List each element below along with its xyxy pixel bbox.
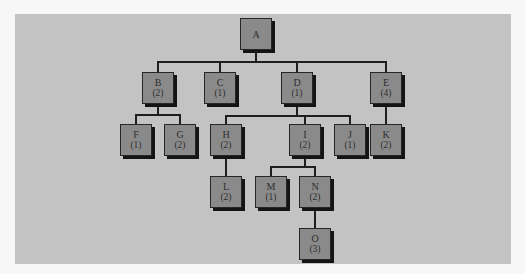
- edge-i-bus: [270, 166, 316, 168]
- edge-d-j: [349, 115, 351, 124]
- tree-node-i: I (2): [289, 124, 321, 156]
- tree-node-o: O (3): [299, 228, 331, 260]
- node-label: I: [303, 129, 306, 140]
- node-count: (4): [380, 88, 391, 99]
- node-label: C: [217, 77, 224, 88]
- node-label: O: [311, 233, 318, 244]
- tree-node-g: G (2): [164, 124, 196, 156]
- node-count: (1): [130, 140, 141, 151]
- edge-a-d: [296, 61, 298, 72]
- node-count: (2): [174, 140, 185, 151]
- tree-node-d: D (1): [281, 72, 313, 104]
- tree-node-m: M (1): [255, 176, 287, 208]
- node-count: (2): [152, 88, 163, 99]
- edge-i-m: [270, 166, 272, 176]
- edge-a-bus: [157, 61, 387, 63]
- tree-node-l: L (2): [210, 176, 242, 208]
- node-count: (1): [265, 192, 276, 203]
- edge-e-k: [385, 104, 387, 124]
- node-count: (2): [220, 140, 231, 151]
- node-count: (3): [309, 244, 320, 255]
- node-label: G: [176, 129, 183, 140]
- node-label: E: [383, 77, 389, 88]
- tree-node-b: B (2): [142, 72, 174, 104]
- edge-d-i: [304, 115, 306, 124]
- node-count: (2): [299, 140, 310, 151]
- edge-a-c: [219, 61, 221, 72]
- edge-b-f: [135, 114, 137, 124]
- tree-node-n: N (2): [299, 176, 331, 208]
- tree-node-h: H (2): [210, 124, 242, 156]
- edge-d-h: [225, 115, 227, 124]
- node-label: L: [223, 181, 229, 192]
- node-label: D: [293, 77, 300, 88]
- node-label: A: [252, 29, 259, 40]
- tree-node-f: F (1): [120, 124, 152, 156]
- node-count: (2): [220, 192, 231, 203]
- node-label: M: [267, 181, 276, 192]
- tree-node-e: E (4): [370, 72, 402, 104]
- node-label: B: [155, 77, 162, 88]
- node-count: (1): [291, 88, 302, 99]
- node-label: K: [382, 129, 389, 140]
- edge-b-bus: [135, 114, 181, 116]
- node-count: (2): [309, 192, 320, 203]
- tree-node-a: A: [240, 18, 272, 50]
- diagram-panel: [15, 14, 511, 264]
- edge-i-n: [314, 166, 316, 176]
- edge-n-o: [314, 208, 316, 228]
- tree-node-k: K (2): [370, 124, 402, 156]
- node-count: (2): [380, 140, 391, 151]
- edge-b-g: [179, 114, 181, 124]
- node-label: N: [311, 181, 318, 192]
- edge-d-bus: [225, 115, 351, 117]
- edge-h-l: [225, 156, 227, 176]
- tree-node-j: J (1): [334, 124, 366, 156]
- node-count: (1): [344, 140, 355, 151]
- node-count: (1): [214, 88, 225, 99]
- tree-node-c: C (1): [204, 72, 236, 104]
- node-label: F: [133, 129, 139, 140]
- edge-a-b: [157, 61, 159, 72]
- node-label: H: [222, 129, 229, 140]
- node-label: J: [348, 129, 352, 140]
- edge-a-e: [385, 61, 387, 72]
